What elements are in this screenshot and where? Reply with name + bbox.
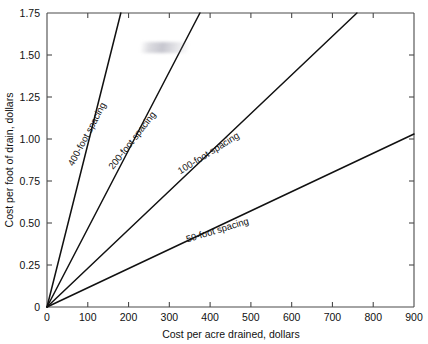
line-chart: 0100200300400500600700800900 00.250.500.… [0,0,428,344]
y-tick-label: 1.75 [20,7,41,19]
y-tick-label: 0.75 [20,175,41,187]
series-label-group: 50-foot spacing [185,215,250,245]
y-tick-label: 0.50 [20,217,41,229]
series-label: 100-foot spacing [176,130,241,177]
x-tick-label: 700 [324,311,342,323]
series-label: 200-foot spacing [106,109,158,171]
x-tick-label: 800 [364,311,382,323]
y-tick-label: 1.25 [20,91,41,103]
y-tick-label: 0.25 [20,259,41,271]
x-tick-label: 500 [242,311,260,323]
chart-figure: 0100200300400500600700800900 00.250.500.… [0,0,428,344]
x-tick-label: 0 [44,311,50,323]
series-label-group: 200-foot spacing [106,109,158,171]
x-axis-tick-labels: 0100200300400500600700800900 [44,311,423,323]
series-inline-labels: 400-foot spacing200-foot spacing100-foot… [65,100,250,244]
data-series-lines [47,13,414,307]
series-label-group: 100-foot spacing [176,130,241,177]
x-tick-label: 400 [201,311,219,323]
y-axis-tick-labels: 00.250.500.751.001.251.501.75 [20,7,41,313]
x-tick-label: 100 [79,311,97,323]
series-label: 400-foot spacing [65,100,108,167]
series-label-group: 400-foot spacing [65,100,108,167]
y-axis-title: Cost per foot of drain, dollars [3,93,15,228]
series-label: 50-foot spacing [185,215,250,245]
x-axis-ticks [88,13,373,307]
y-tick-label: 1.00 [20,133,41,145]
y-tick-label: 0 [34,301,40,313]
y-tick-label: 1.50 [20,49,41,61]
x-axis-title: Cost per acre drained, dollars [162,328,300,340]
x-tick-label: 200 [120,311,138,323]
x-tick-label: 600 [283,311,301,323]
x-tick-label: 300 [161,311,179,323]
x-tick-label: 900 [405,311,423,323]
